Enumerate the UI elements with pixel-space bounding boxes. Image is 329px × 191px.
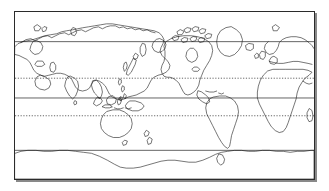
black-sea-outline (35, 61, 45, 66)
madagascar-island (307, 109, 313, 122)
svalbard-islands (272, 25, 279, 31)
british-isles (254, 52, 265, 60)
iceland-island (245, 44, 253, 51)
new-guinea-island (125, 101, 144, 111)
borneo-island (106, 96, 116, 105)
caribbean-islands (206, 91, 224, 94)
tasmania-island (122, 140, 127, 145)
africa-landmass (257, 69, 312, 132)
arctic-islands-left (34, 25, 47, 32)
world-map-figure (0, 0, 329, 191)
taiwan-island (118, 79, 121, 85)
novaya-zemlya (71, 28, 77, 36)
scandinavia-outline (30, 41, 43, 55)
arabian-peninsula (35, 75, 51, 90)
alaska-region (152, 39, 166, 53)
mediterranean-sea-coast (269, 61, 312, 64)
antarctic-peninsula (217, 154, 225, 165)
hudson-bay-outline (186, 49, 198, 63)
java-island (102, 105, 112, 108)
japan-hokkaido (133, 54, 138, 60)
kamchatka-peninsula (140, 44, 146, 57)
africa-horn (303, 81, 312, 84)
iberian-peninsula (269, 56, 277, 64)
new-zealand-islands (144, 131, 152, 145)
sumatra-island (93, 98, 102, 106)
map-frame (14, 11, 315, 180)
korean-peninsula (123, 62, 127, 71)
world-map-svg (15, 12, 314, 179)
sulawesi-island (117, 98, 121, 105)
eurasia-north-coast-detail (21, 26, 155, 43)
north-america-landmass (161, 36, 213, 95)
sri-lanka-island (74, 101, 77, 105)
caspian-sea-outline (50, 62, 56, 72)
south-america-landmass (206, 96, 239, 148)
coastline-layer (15, 24, 314, 179)
southeast-asia-peninsula (91, 80, 102, 99)
europe-right-edge (264, 37, 314, 55)
australia-landmass (100, 110, 132, 138)
canadian-arctic-archipelago (172, 27, 212, 43)
antarctica-landmass (15, 150, 314, 179)
lesser-sunda-islands (114, 108, 131, 109)
great-lakes-outline (192, 67, 200, 71)
japan-islands (126, 58, 136, 75)
